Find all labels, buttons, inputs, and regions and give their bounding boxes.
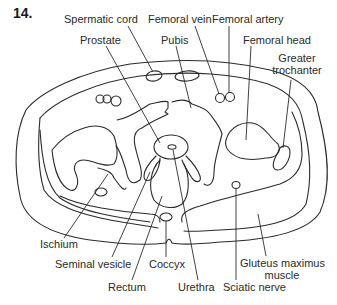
femoral-head-shape xyxy=(226,123,280,160)
seminal-vesicle-right xyxy=(182,156,200,182)
left-ischium xyxy=(98,168,126,189)
pubis-left xyxy=(116,101,168,183)
label-seminal-vesicle: Seminal vesicle xyxy=(55,258,131,270)
label-urethra: Urethra xyxy=(178,281,215,293)
gluteal-line-left xyxy=(60,196,160,222)
leader-lines xyxy=(64,26,291,280)
pelvis-cross-section-diagram: 14. Spermatic cord Femoral vein Femoral … xyxy=(0,0,337,305)
label-sciatic-nerve: Sciatic nerve xyxy=(223,281,286,293)
left-vessel-3 xyxy=(111,96,121,106)
coccyx-shape xyxy=(160,213,172,221)
pubis-right xyxy=(172,100,222,185)
label-femoral-head: Femoral head xyxy=(243,34,311,46)
label-rectum: Rectum xyxy=(108,281,146,293)
label-femoral-artery: Femoral artery xyxy=(212,13,284,25)
label-gluteus-maximus: Gluteus maximus muscle xyxy=(240,257,324,281)
urethra-shape xyxy=(168,145,176,149)
pubic-fat-shape xyxy=(175,70,200,82)
femoral-artery-shape xyxy=(226,93,235,102)
left-acetabulum xyxy=(52,126,117,190)
label-pubis: Pubis xyxy=(161,34,189,46)
greater-trochanter-shape xyxy=(273,146,290,170)
sciatic-nerve-shape xyxy=(232,182,240,189)
label-ischium: Ischium xyxy=(40,238,78,250)
label-femoral-vein: Femoral vein xyxy=(148,13,212,25)
femoral-vein-shape xyxy=(216,94,225,103)
seminal-vesicle-left xyxy=(144,156,160,181)
label-greater-trochanter-line2: trochanter xyxy=(272,64,322,76)
label-coccyx: Coccyx xyxy=(149,258,185,270)
left-sciatic-nerve-shape xyxy=(95,188,107,196)
label-spermatic-cord: Spermatic cord xyxy=(64,13,138,25)
label-greater-trochanter-line1: Greater xyxy=(272,52,322,64)
label-gluteus-maximus-line2: muscle xyxy=(240,269,324,281)
figure-number: 14. xyxy=(13,5,32,21)
label-greater-trochanter: Greater trochanter xyxy=(272,52,322,76)
label-prostate: Prostate xyxy=(80,34,121,46)
prostate-shape xyxy=(154,135,188,159)
label-gluteus-maximus-line1: Gluteus maximus xyxy=(240,257,324,269)
spermatic-cord-shape xyxy=(145,70,162,83)
